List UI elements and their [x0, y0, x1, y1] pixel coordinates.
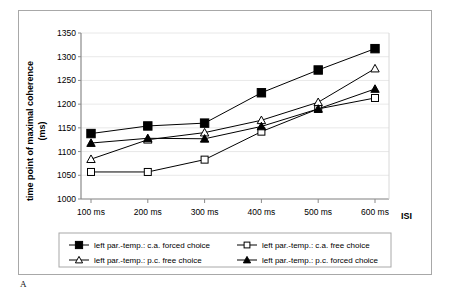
y-tick-label: 1000 — [57, 194, 76, 204]
marker-filled-square — [371, 44, 379, 52]
x-axis-title: ISI — [401, 211, 412, 221]
y-tick-label: 1350 — [57, 28, 76, 38]
chart-frame: 10001050110011501200125013001350 100 ms2… — [18, 10, 432, 275]
marker-filled-square — [75, 241, 82, 248]
x-tick-label: 400 ms — [247, 207, 275, 217]
x-tick-label: 500 ms — [304, 207, 332, 217]
y-tick-label: 1200 — [57, 99, 76, 109]
panel-letter: A — [20, 279, 27, 289]
x-tick-label: 300 ms — [191, 207, 219, 217]
legend-label: left par.-temp.: p.c. free choice — [94, 256, 202, 265]
marker-filled-square — [257, 89, 265, 97]
line-chart: 10001050110011501200125013001350 100 ms2… — [19, 11, 431, 274]
legend-label: left par.-temp.: c.a. forced choice — [94, 241, 211, 250]
y-tick-label: 1250 — [57, 75, 76, 85]
y-axis-title-line1: time point of maximal coherence — [25, 61, 35, 201]
y-tick-label: 1100 — [58, 147, 77, 157]
x-tick-label: 200 ms — [134, 207, 162, 217]
legend-label: left par.-temp.: c.a. free choice — [262, 241, 370, 250]
y-tick-label: 1050 — [57, 170, 76, 180]
plot-area: 10001050110011501200125013001350 100 ms2… — [19, 11, 431, 274]
marker-open-square — [201, 156, 208, 163]
y-axis-title-line2: (ms) — [37, 121, 47, 140]
marker-open-square — [144, 168, 151, 175]
x-tick-label: 600 ms — [361, 207, 389, 217]
figure-panel: 10001050110011501200125013001350 100 ms2… — [0, 0, 454, 298]
legend-label: left par.-temp.: p.c. forced choice — [262, 256, 379, 265]
marker-filled-square — [314, 66, 322, 74]
marker-open-square — [372, 94, 379, 101]
marker-filled-square — [200, 119, 208, 127]
y-tick-label: 1150 — [58, 123, 77, 133]
marker-filled-square — [144, 122, 152, 130]
marker-open-square — [244, 242, 250, 248]
x-tick-label: 100 ms — [77, 207, 105, 217]
marker-filled-square — [87, 129, 95, 137]
marker-open-square — [88, 168, 95, 175]
y-tick-label: 1300 — [57, 52, 76, 62]
